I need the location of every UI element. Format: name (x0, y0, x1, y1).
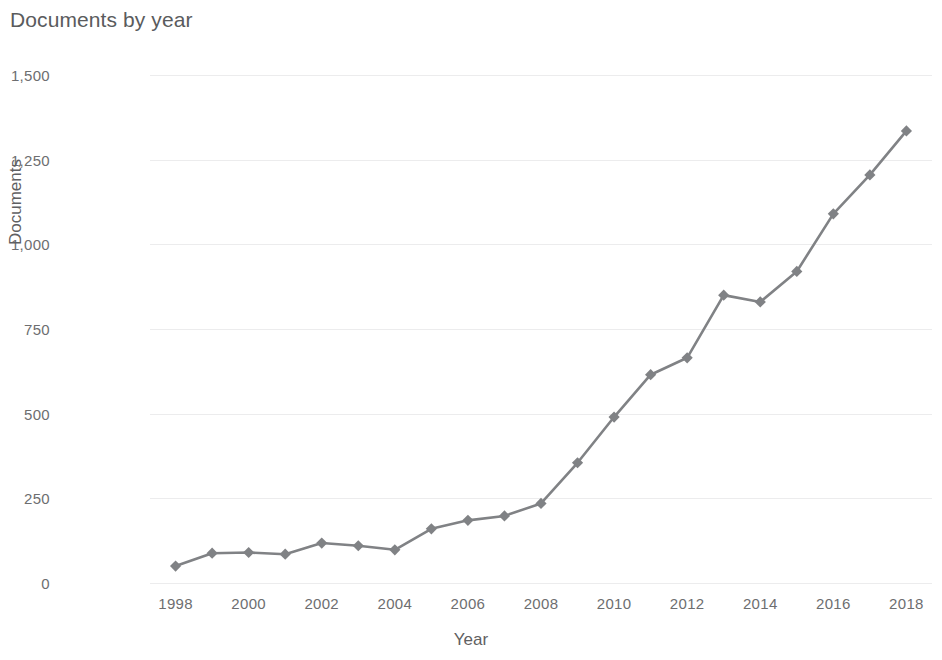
documents-by-year-chart: Documents by year 02505007501,0001,2501,… (0, 0, 942, 660)
data-point-marker[interactable] (170, 560, 181, 571)
data-point-marker[interactable] (499, 510, 510, 521)
data-point-marker[interactable] (389, 544, 400, 555)
data-point-marker[interactable] (426, 523, 437, 534)
data-point-marker[interactable] (280, 549, 291, 560)
data-point-marker[interactable] (207, 548, 218, 559)
data-point-marker[interactable] (316, 537, 327, 548)
x-axis-title: Year (0, 630, 942, 650)
data-point-marker[interactable] (353, 540, 364, 551)
data-point-marker[interactable] (718, 290, 729, 301)
data-point-marker[interactable] (243, 547, 254, 558)
data-point-marker[interactable] (462, 515, 473, 526)
data-point-marker[interactable] (682, 352, 693, 363)
data-series-layer (0, 0, 942, 660)
y-axis-title: Documents (6, 159, 26, 245)
